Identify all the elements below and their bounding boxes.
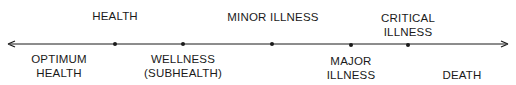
label-wellness: WELLNESS (SUBHEALTH) [144,52,222,80]
label-major-line1: MAJOR [327,54,376,68]
point-critical-illness [406,43,410,47]
point-health [113,42,117,46]
label-critical-line2: ILLNESS [381,25,435,39]
point-wellness [181,42,185,46]
label-optimum-line1: OPTIMUM [31,52,87,66]
label-major-line2: ILLNESS [327,68,376,82]
label-optimum-line2: HEALTH [31,66,87,80]
label-wellness-line2: (SUBHEALTH) [144,66,222,80]
label-optimum-health: OPTIMUM HEALTH [31,52,87,80]
label-critical-illness: CRITICAL ILLNESS [381,11,435,39]
point-minor-illness [270,42,274,46]
label-major-illness: MAJOR ILLNESS [327,54,376,82]
label-critical-line1: CRITICAL [381,11,435,25]
label-health: HEALTH [92,9,138,23]
label-wellness-line1: WELLNESS [144,52,222,66]
label-minor-illness: MINOR ILLNESS [227,10,318,24]
point-major-illness [349,43,353,47]
label-death: DEATH [442,68,481,82]
